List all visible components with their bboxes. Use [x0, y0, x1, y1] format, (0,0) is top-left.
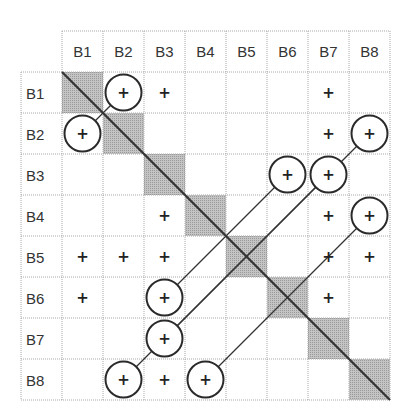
plus-mark: +: [76, 248, 89, 266]
column-header: B3: [155, 43, 173, 60]
row-header: B8: [26, 372, 44, 389]
plus-mark: +: [322, 248, 335, 266]
plus-mark: +: [76, 125, 89, 143]
plus-mark: +: [76, 289, 89, 307]
column-header: B6: [278, 43, 296, 60]
row-header: B7: [26, 331, 44, 348]
plus-mark: +: [281, 166, 294, 184]
plus-mark: +: [158, 84, 171, 102]
row-header: B5: [26, 249, 44, 266]
plus-mark: +: [199, 371, 212, 389]
column-header: B8: [360, 43, 378, 60]
plus-mark: +: [322, 207, 335, 225]
plus-mark: +: [158, 248, 171, 266]
plus-mark: +: [322, 289, 335, 307]
row-header: B2: [26, 126, 44, 143]
plus-mark: +: [158, 371, 171, 389]
row-header: B6: [26, 290, 44, 307]
column-header: B4: [196, 43, 214, 60]
plus-mark: +: [322, 125, 335, 143]
row-header: B3: [26, 167, 44, 184]
plus-mark: +: [158, 330, 171, 348]
plus-mark: +: [117, 371, 130, 389]
column-header: B7: [319, 43, 337, 60]
plus-mark: +: [117, 84, 130, 102]
dsm-matrix: B1B2B3B4B5B6B7B8B1B2B3B4B5B6B7B8 +++++++…: [0, 0, 412, 416]
column-header: B2: [114, 43, 132, 60]
column-header: B5: [237, 43, 255, 60]
row-header: B1: [26, 85, 44, 102]
plus-mark: +: [363, 248, 376, 266]
plus-mark: +: [117, 248, 130, 266]
plus-mark: +: [363, 207, 376, 225]
plus-mark: +: [322, 84, 335, 102]
plus-mark: +: [158, 207, 171, 225]
plus-mark: +: [363, 125, 376, 143]
plus-mark: +: [322, 166, 335, 184]
plus-mark: +: [158, 289, 171, 307]
column-header: B1: [73, 43, 91, 60]
row-header: B4: [26, 208, 44, 225]
